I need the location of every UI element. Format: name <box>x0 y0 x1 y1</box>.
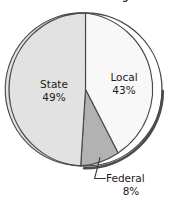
pie-label-local: Local 43% <box>100 71 148 96</box>
pie-label-federal-name: Federal <box>106 172 164 185</box>
pie-chart: g State 49% Local 43% Federal 8% <box>0 0 169 214</box>
pie-label-state-name: State <box>30 78 78 91</box>
pie-label-local-value: 43% <box>100 84 148 97</box>
pie-label-federal-value: 8% <box>106 185 156 198</box>
pie-label-local-name: Local <box>100 71 148 84</box>
pie-label-federal: Federal 8% <box>106 172 164 197</box>
pie-label-state-value: 49% <box>30 91 78 104</box>
pie-label-state: State 49% <box>30 78 78 103</box>
